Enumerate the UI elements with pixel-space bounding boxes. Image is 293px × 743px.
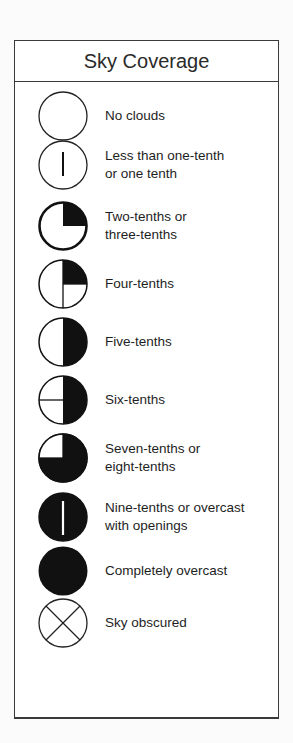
quarter-filled-crossline-circle-icon xyxy=(37,258,89,310)
vertical-line-circle-icon xyxy=(37,139,89,191)
legend-label: Two-tenths or three-tenths xyxy=(105,208,187,244)
legend-label: Less than one-tenth or one tenth xyxy=(105,147,224,183)
legend-label: Completely overcast xyxy=(105,562,227,580)
legend-label: Four-tenths xyxy=(105,275,174,293)
quarter-filled-circle-icon xyxy=(37,200,89,252)
legend-label: Five-tenths xyxy=(105,333,172,351)
clear-circle-icon xyxy=(37,90,89,142)
half-filled-crossline-circle-icon xyxy=(37,374,89,426)
legend-label: Sky obscured xyxy=(105,614,187,632)
legend-label: No clouds xyxy=(105,107,165,125)
half-filled-circle-icon xyxy=(37,316,89,368)
filled-with-gap-circle-icon xyxy=(37,491,89,543)
legend-label: Seven-tenths or eight-tenths xyxy=(105,440,200,476)
legend-label: Nine-tenths or overcast with openings xyxy=(105,499,245,535)
x-circle-icon xyxy=(37,597,89,649)
three-quarter-filled-circle-icon xyxy=(37,432,89,484)
legend-label: Six-tenths xyxy=(105,391,165,409)
filled-circle-icon xyxy=(37,545,89,597)
sky-coverage-legend: Sky Coverage No clouds Less than one-ten… xyxy=(14,40,279,719)
legend-title: Sky Coverage xyxy=(15,41,278,82)
